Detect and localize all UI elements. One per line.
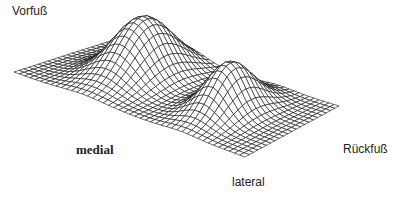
pressure-surface-plot [0,0,398,197]
medial-label: medial [76,142,114,158]
forefoot-label: Vorfuß [12,4,47,18]
lateral-label: lateral [232,175,265,189]
rearfoot-label: Rückfuß [343,142,388,156]
surface-mesh [14,16,339,157]
